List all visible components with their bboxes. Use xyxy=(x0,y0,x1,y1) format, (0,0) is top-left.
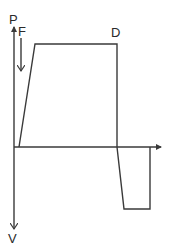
force-displacement-diagram: P F D V xyxy=(0,0,170,245)
p-axis-label: P xyxy=(9,12,18,27)
point-d-label: D xyxy=(111,25,120,40)
point-f-label: F xyxy=(18,24,26,39)
v-axis-label: V xyxy=(8,231,17,245)
lower-load-curve xyxy=(117,147,150,209)
upper-load-curve xyxy=(19,44,117,147)
